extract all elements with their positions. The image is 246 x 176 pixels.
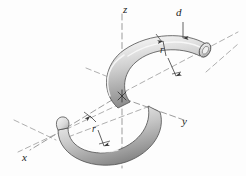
dimension-label-radius-lower: r — [92, 125, 96, 135]
dimension-label-diameter: d — [176, 7, 182, 18]
rod-lower-end-cap — [56, 117, 69, 130]
rod-upper-arc — [107, 36, 206, 108]
lower-arc-axis-stub — [14, 120, 56, 140]
axis-label-z: z — [123, 4, 127, 15]
radius-lower-leader — [84, 112, 110, 146]
lower-chord — [60, 106, 150, 140]
axis-label-x: x — [22, 152, 27, 163]
figure-canvas: z y x d r r — [0, 0, 246, 176]
axis-label-y: y — [182, 116, 187, 127]
rod-lower-arc — [58, 106, 161, 165]
s-rod-drawing — [0, 0, 246, 176]
dimension-label-radius-upper: r — [160, 46, 164, 56]
